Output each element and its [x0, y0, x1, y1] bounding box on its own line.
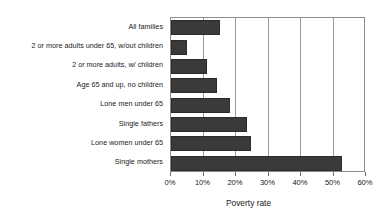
x-tick-label: 0%	[155, 178, 185, 187]
bar	[171, 136, 251, 151]
plot-area	[170, 17, 365, 172]
category-label: Lone women under 65	[0, 139, 163, 147]
category-label: Single mothers	[0, 158, 163, 166]
bar	[171, 20, 220, 35]
x-axis-title-text: Poverty rate	[226, 198, 271, 208]
x-axis-title: Poverty rate	[0, 198, 382, 208]
category-label: All families	[0, 23, 163, 31]
x-tick-mark	[268, 172, 269, 176]
x-tick-label: 30%	[253, 178, 283, 187]
poverty-rate-bar-chart: All families2 or more adults under 65, w…	[0, 0, 382, 219]
category-label: 2 or more adults, w/ children	[0, 61, 163, 69]
gridline-40%	[300, 18, 301, 171]
x-tick-mark	[170, 172, 171, 176]
category-label: Age 65 and up, no children	[0, 81, 163, 89]
x-tick-label: 10%	[188, 178, 218, 187]
x-tick-label: 40%	[285, 178, 315, 187]
bar	[171, 156, 342, 171]
bar	[171, 40, 187, 55]
x-tick-mark	[203, 172, 204, 176]
x-tick-mark	[333, 172, 334, 176]
x-tick-mark	[235, 172, 236, 176]
gridline-30%	[268, 18, 269, 171]
gridline-50%	[333, 18, 334, 171]
bar	[171, 78, 217, 93]
bar	[171, 117, 247, 132]
bar	[171, 59, 207, 74]
category-label: Lone men under 65	[0, 100, 163, 108]
x-tick-label: 20%	[220, 178, 250, 187]
category-label: Single fathers	[0, 120, 163, 128]
x-tick-label: 60%	[350, 178, 380, 187]
category-axis-labels: All families2 or more adults under 65, w…	[0, 17, 167, 172]
x-tick-mark	[365, 172, 366, 176]
category-label: 2 or more adults under 65, w/out childre…	[0, 42, 163, 50]
x-tick-label: 50%	[318, 178, 348, 187]
bar	[171, 98, 230, 113]
x-tick-mark	[300, 172, 301, 176]
